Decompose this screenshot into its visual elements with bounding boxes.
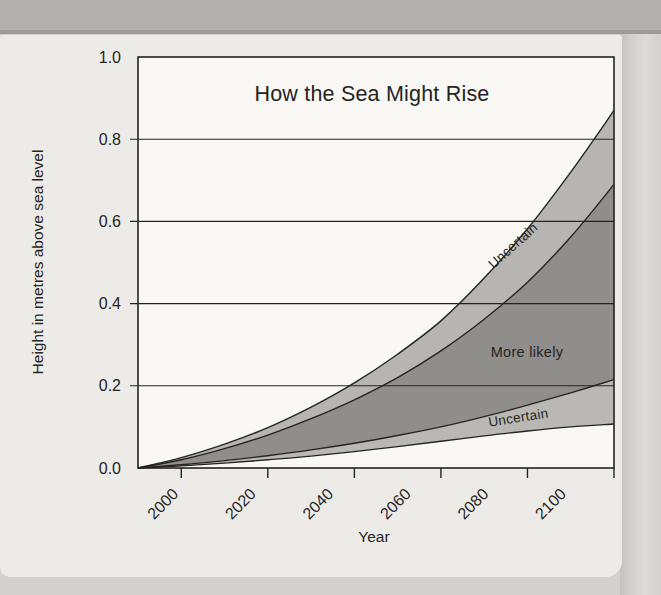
y-tick-label-1.0: 1.0 [99,49,121,66]
x-axis-ticks [181,468,614,478]
sea-rise-chart: 200020202040206020802100 1.00.80.60.40.2… [0,0,661,595]
y-tick-label-0.8: 0.8 [99,131,121,148]
x-axis-tick-labels: 200020202040206020802100 [144,485,569,522]
chart-title: How the Sea Might Rise [254,82,489,106]
x-tick-label-2020: 2020 [222,485,259,522]
y-axis-title: Height in metres above sea level [29,150,46,375]
x-tick-label-2100: 2100 [532,485,569,522]
x-tick-label-2080: 2080 [454,485,491,522]
x-tick-label-2060: 2060 [377,485,414,522]
band-label-more-likely: More likely [491,344,564,360]
y-axis-tick-labels: 1.00.80.60.40.20.0 [99,49,121,477]
y-tick-label-0.4: 0.4 [99,295,121,312]
x-tick-label-2040: 2040 [299,485,336,522]
x-axis-title: Year [358,528,389,545]
y-tick-label-0.6: 0.6 [99,213,121,230]
y-tick-label-0.0: 0.0 [99,460,121,477]
x-tick-label-2000: 2000 [144,485,181,522]
y-tick-label-0.2: 0.2 [99,377,121,394]
